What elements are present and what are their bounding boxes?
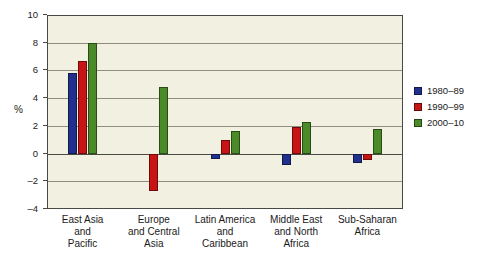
y-tick-label: 4 — [12, 93, 38, 103]
bar — [88, 43, 97, 154]
zero-line — [48, 154, 402, 155]
y-axis-title: % — [14, 104, 23, 115]
y-tick-mark — [43, 97, 47, 98]
legend-label: 2000–10 — [427, 118, 464, 128]
y-tick-label: 0 — [12, 149, 38, 159]
y-tick-label: –2 — [12, 176, 38, 186]
y-tick-label: –4 — [12, 204, 38, 214]
y-tick-label: 8 — [12, 38, 38, 48]
y-tick-mark — [43, 14, 47, 15]
legend-item[interactable]: 1990–99 — [414, 100, 464, 113]
legend-item[interactable]: 1980–89 — [414, 84, 464, 97]
y-axis: % 1086420–2–4 — [0, 0, 47, 261]
y-tick-mark — [43, 180, 47, 181]
category-label: Middle East and North Africa — [261, 214, 332, 251]
gridline — [48, 126, 402, 127]
bar-chart: % 1086420–2–4 East Asia and PacificEurop… — [0, 0, 481, 261]
legend-label: 1990–99 — [427, 102, 464, 112]
y-tick-mark — [43, 125, 47, 126]
bar — [373, 129, 382, 154]
bar — [221, 140, 230, 154]
bar — [68, 73, 77, 154]
legend-swatch-icon — [414, 103, 422, 111]
legend: 1980–891990–992000–10 — [414, 84, 464, 132]
y-tick-mark — [43, 153, 47, 154]
y-tick-label: 2 — [12, 121, 38, 131]
bar — [353, 154, 362, 164]
bar — [159, 87, 168, 154]
gridline — [48, 98, 402, 99]
bar — [231, 131, 240, 153]
category-label: East Asia and Pacific — [47, 214, 118, 251]
gridline — [48, 181, 402, 182]
bar — [363, 154, 372, 161]
bar — [302, 122, 311, 153]
bar — [282, 154, 291, 165]
category-label: Latin America and Caribbean — [189, 214, 260, 251]
legend-label: 1980–89 — [427, 86, 464, 96]
y-tick-mark — [43, 208, 47, 209]
y-tick-label: 6 — [12, 65, 38, 75]
bar — [78, 61, 87, 154]
bar — [211, 154, 220, 160]
legend-swatch-icon — [414, 87, 422, 95]
bar — [292, 127, 301, 153]
y-tick-label: 10 — [12, 10, 38, 20]
legend-item[interactable]: 2000–10 — [414, 116, 464, 129]
legend-swatch-icon — [414, 119, 422, 127]
gridline — [48, 70, 402, 71]
y-tick-mark — [43, 42, 47, 43]
y-tick-mark — [43, 69, 47, 70]
category-label: Sub-Saharan Africa — [332, 214, 403, 238]
plot-area — [47, 15, 403, 209]
gridline — [48, 43, 402, 44]
category-label: Europe and Central Asia — [118, 214, 189, 251]
bar — [149, 154, 158, 191]
